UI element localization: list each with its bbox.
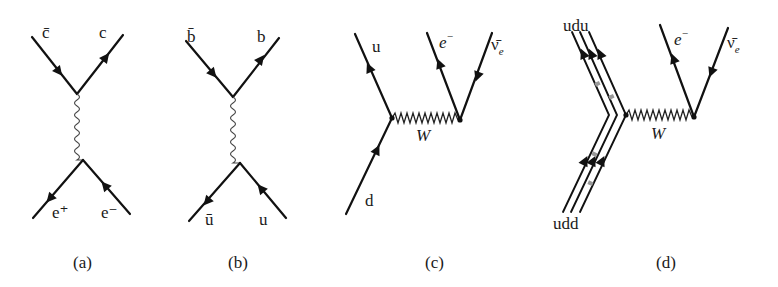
- label-e-plus: e⁺: [52, 203, 69, 222]
- u-bar-line: [189, 163, 240, 221]
- label-udu: udu: [563, 16, 589, 35]
- feynman-diagrams-figure: c̄ c e⁺ e⁻ (a) b̄ b ū u (b): [0, 0, 778, 287]
- caption-a: (a): [73, 253, 92, 272]
- label-c-bar: c̄: [42, 23, 50, 42]
- label-b-bar: b̄: [187, 27, 196, 46]
- b-bar-line: [186, 41, 233, 97]
- c-line: [77, 35, 123, 94]
- label-u-bar: ū: [205, 210, 214, 229]
- label-electron: e−: [439, 30, 454, 52]
- panel-c: u d e− ν̄e W (c): [346, 30, 504, 272]
- w-boson-propagator: [626, 110, 692, 120]
- label-w-boson: W: [416, 126, 432, 145]
- arrow-icon: [371, 143, 384, 156]
- panel-a: c̄ c e⁺ e⁻ (a): [32, 23, 130, 272]
- label-antineutrino: ν̄e: [727, 33, 740, 55]
- photon-propagator: [75, 94, 84, 160]
- arrow-icon: [705, 66, 718, 79]
- label-d: d: [365, 191, 374, 210]
- caption-b: (b): [228, 253, 248, 272]
- arrow-icon: [433, 57, 446, 70]
- quark-line-2: [571, 32, 617, 212]
- label-electron: e−: [674, 27, 689, 49]
- label-u: u: [259, 210, 268, 229]
- quark-line-3: [580, 32, 626, 212]
- vertex-dot: [623, 112, 628, 117]
- label-antineutrino: ν̄e: [491, 35, 504, 57]
- label-b: b: [257, 27, 266, 46]
- photon-propagator: [231, 97, 241, 163]
- label-w-boson: W: [651, 124, 667, 143]
- b-line: [233, 38, 279, 97]
- c-bar-line: [32, 37, 77, 94]
- label-u: u: [372, 37, 381, 56]
- vertex-dot: [389, 115, 394, 120]
- label-e-minus: e⁻: [101, 203, 118, 222]
- arrow-icon: [471, 70, 484, 83]
- panel-d: udu udd e− ν̄e W (d): [553, 16, 740, 272]
- caption-c: (c): [425, 253, 444, 272]
- panel-b: b̄ b ū u (b): [186, 27, 286, 272]
- w-boson-propagator: [392, 113, 458, 123]
- arrow-icon: [667, 52, 680, 65]
- quark-line-1: [563, 32, 609, 212]
- label-c: c: [99, 23, 107, 42]
- caption-d: (d): [656, 253, 676, 272]
- label-udd: udd: [553, 214, 579, 233]
- arrow-icon: [362, 61, 375, 74]
- arrow-icon: [593, 47, 606, 60]
